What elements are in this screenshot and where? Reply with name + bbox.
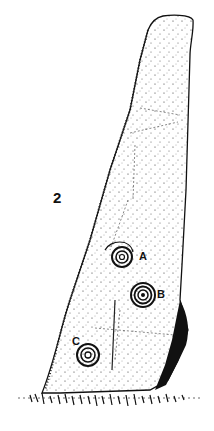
marking-b xyxy=(131,283,155,307)
standing-stone-drawing xyxy=(0,0,214,431)
grass-base xyxy=(18,393,200,406)
stone-outline xyxy=(42,15,193,393)
marking-label-c: C xyxy=(72,335,80,347)
figure-number: 2 xyxy=(53,189,61,206)
stone-illustration: 2 A B C xyxy=(0,0,214,431)
marking-label-a: A xyxy=(139,250,147,262)
marking-label-b: B xyxy=(157,288,165,300)
